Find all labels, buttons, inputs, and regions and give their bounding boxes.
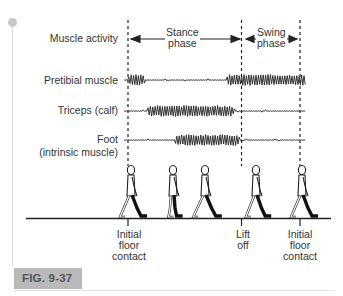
label-triceps: Triceps (calf) bbox=[58, 104, 118, 116]
event-next-initial-contact: Initial floor contact bbox=[270, 229, 330, 262]
figure-back-leg-fill bbox=[193, 196, 203, 217]
figure-head bbox=[169, 166, 176, 175]
figure-head bbox=[252, 166, 259, 175]
walking-figure-0 bbox=[120, 166, 147, 218]
walking-figure-3 bbox=[246, 166, 271, 218]
figure-front-leg bbox=[132, 195, 147, 216]
label-foot-sub: (intrinsic muscle) bbox=[39, 146, 118, 158]
figure-back-leg-fill bbox=[246, 196, 254, 217]
event-text: contact bbox=[270, 251, 330, 262]
walking-figure-1 bbox=[168, 166, 182, 218]
figure-caption-label: FIG. 9-37 bbox=[14, 268, 82, 289]
label-pretibial: Pretibial muscle bbox=[44, 74, 118, 86]
stance-phase-label: Stance phase bbox=[165, 27, 200, 49]
figure-head bbox=[298, 166, 305, 175]
figure-front-leg bbox=[303, 195, 318, 216]
figure-front-leg bbox=[174, 195, 183, 216]
swing-line2: phase bbox=[257, 38, 286, 49]
emg-trace-foot-intrinsic-muscle bbox=[124, 135, 305, 146]
swing-arrow-right-head bbox=[289, 36, 297, 43]
event-ticks bbox=[128, 218, 300, 226]
walking-figure-4 bbox=[291, 166, 318, 218]
walking-figure-2 bbox=[193, 166, 222, 218]
label-muscle-activity: Muscle activity bbox=[50, 32, 118, 44]
event-initial-contact: Initial floor contact bbox=[99, 229, 159, 262]
stance-arrow-right-head bbox=[231, 36, 240, 43]
walking-figures bbox=[120, 166, 318, 218]
event-lift-off: Lift off bbox=[213, 229, 273, 251]
swing-arrow-left-head bbox=[246, 36, 254, 43]
figure-back-leg-fill bbox=[120, 196, 129, 217]
emg-trace-triceps-calf bbox=[124, 106, 305, 117]
figure-head bbox=[127, 166, 134, 175]
figure-back-leg-fill bbox=[291, 196, 300, 217]
label-foot: Foot bbox=[97, 133, 118, 145]
figure-front-leg bbox=[257, 195, 271, 216]
event-text: contact bbox=[99, 251, 159, 262]
figure-head bbox=[201, 166, 208, 175]
emg-traces bbox=[124, 75, 305, 146]
stance-line2: phase bbox=[166, 38, 199, 49]
emg-trace-pretibial-muscle bbox=[124, 75, 305, 86]
figure-front-leg bbox=[206, 195, 222, 216]
event-text: off bbox=[213, 240, 273, 251]
stance-arrow-left-head bbox=[131, 36, 140, 43]
swing-phase-label: Swing phase bbox=[256, 27, 287, 49]
